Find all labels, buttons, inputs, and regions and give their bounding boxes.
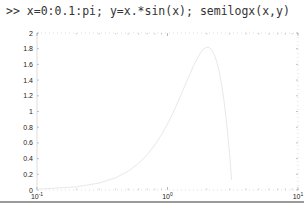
semilogx-plot: 00.20.40.60.811.21.41.61.8210-1100101 <box>0 0 304 212</box>
y-tick-label: 0.2 <box>23 171 33 178</box>
divider <box>0 201 304 203</box>
y-tick-label: 0.4 <box>23 155 33 162</box>
x-tick-label: 101 <box>293 191 304 200</box>
y-tick-label: 1.4 <box>23 77 33 84</box>
y-tick-label: 0.6 <box>23 139 33 146</box>
data-line <box>37 47 232 189</box>
y-tick-label: 0.8 <box>23 124 33 131</box>
y-tick-label: 1 <box>29 108 33 115</box>
y-tick-label: 1.2 <box>23 92 33 99</box>
x-tick-label: 10-1 <box>31 191 43 200</box>
x-tick-label: 100 <box>162 191 173 200</box>
y-tick-label: 1.6 <box>23 61 33 68</box>
y-tick-label: 2 <box>29 30 33 37</box>
y-tick-label: 1.8 <box>23 45 33 52</box>
